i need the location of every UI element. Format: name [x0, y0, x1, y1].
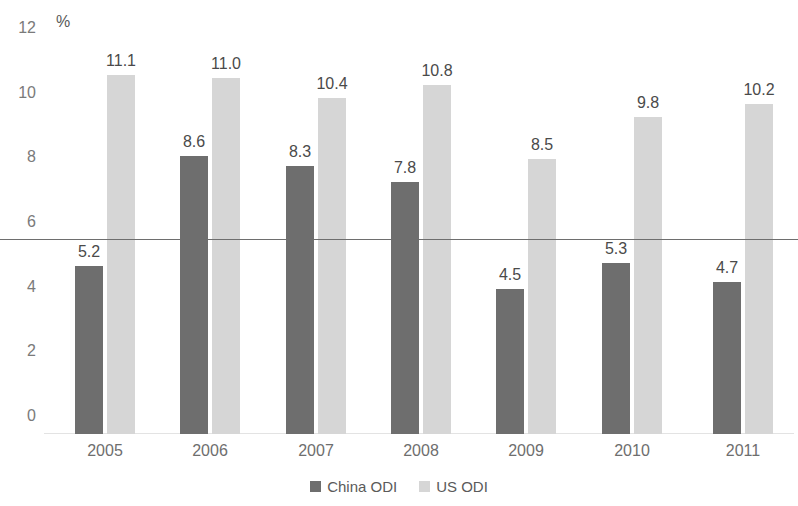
legend-item[interactable]: China ODI — [310, 478, 397, 495]
legend-swatch-icon — [419, 481, 430, 492]
bar-group: 5.39.8 — [602, 46, 662, 434]
chart-legend: China ODIUS ODI — [0, 478, 798, 495]
x-axis-tick-label: 2009 — [508, 442, 544, 460]
bar-us-odi[interactable]: 11.0 — [212, 78, 240, 434]
bar-group: 8.611.0 — [180, 46, 240, 434]
bar-china-odi[interactable]: 7.8 — [391, 182, 419, 434]
y-axis-tick-label: 8 — [27, 148, 36, 166]
x-axis-tick-label: 2008 — [403, 442, 439, 460]
bar-china-odi[interactable]: 5.3 — [602, 263, 630, 434]
plot-area: 0246810125.211.18.611.08.310.47.810.84.5… — [44, 46, 794, 434]
y-axis-tick-label: 6 — [27, 213, 36, 231]
bar-value-label: 5.2 — [78, 243, 100, 261]
legend-swatch-icon — [310, 481, 321, 492]
bar-us-odi[interactable]: 11.1 — [107, 75, 135, 434]
legend-label: China ODI — [327, 478, 397, 495]
bar-group: 4.710.2 — [713, 46, 773, 434]
bar-us-odi[interactable]: 8.5 — [528, 159, 556, 434]
bar-group: 8.310.4 — [286, 46, 346, 434]
y-axis-tick-label: 4 — [27, 278, 36, 296]
bar-us-odi[interactable]: 10.8 — [423, 85, 451, 434]
bar-china-odi[interactable]: 4.5 — [496, 289, 524, 435]
bar-value-label: 10.8 — [421, 62, 452, 80]
bar-group: 4.58.5 — [496, 46, 556, 434]
x-axis-tick-label: 2005 — [87, 442, 123, 460]
y-axis-unit-label: % — [56, 13, 70, 31]
chart-figure: % 0246810125.211.18.611.08.310.47.810.84… — [0, 0, 798, 506]
bar-china-odi[interactable]: 5.2 — [75, 266, 103, 434]
y-axis-tick-label: 0 — [27, 407, 36, 425]
bar-value-label: 5.3 — [605, 240, 627, 258]
bar-value-label: 9.8 — [637, 94, 659, 112]
bar-value-label: 11.0 — [211, 55, 241, 73]
x-axis-tick-label: 2006 — [192, 442, 228, 460]
y-axis-tick-label: 12 — [18, 19, 36, 37]
bar-value-label: 10.4 — [316, 75, 347, 93]
bar-value-label: 8.5 — [531, 136, 553, 154]
y-axis-tick-label: 2 — [27, 342, 36, 360]
bar-value-label: 11.1 — [106, 52, 136, 70]
bar-value-label: 10.2 — [743, 81, 774, 99]
bar-group: 7.810.8 — [391, 46, 451, 434]
x-axis-tick-label: 2011 — [726, 442, 760, 460]
legend-item[interactable]: US ODI — [419, 478, 488, 495]
reference-line — [0, 239, 798, 240]
bar-china-odi[interactable]: 4.7 — [713, 282, 741, 434]
bar-us-odi[interactable]: 9.8 — [634, 117, 662, 434]
bar-value-label: 4.7 — [716, 259, 738, 277]
x-axis-tick-label: 2007 — [298, 442, 334, 460]
bar-value-label: 4.5 — [499, 266, 521, 284]
bar-china-odi[interactable]: 8.6 — [180, 156, 208, 434]
y-axis-tick-label: 10 — [18, 84, 36, 102]
legend-label: US ODI — [436, 478, 488, 495]
bar-value-label: 8.3 — [289, 143, 311, 161]
bar-value-label: 7.8 — [394, 159, 416, 177]
bar-us-odi[interactable]: 10.4 — [318, 98, 346, 434]
x-axis-tick-label: 2010 — [614, 442, 650, 460]
bar-value-label: 8.6 — [183, 133, 205, 151]
bar-us-odi[interactable]: 10.2 — [745, 104, 773, 434]
bar-group: 5.211.1 — [75, 46, 135, 434]
bar-china-odi[interactable]: 8.3 — [286, 166, 314, 434]
